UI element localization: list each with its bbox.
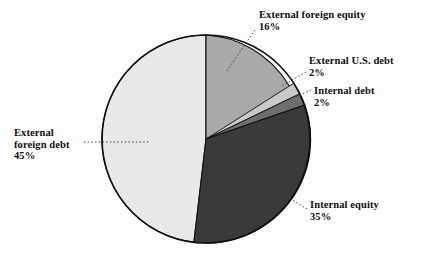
slice-label-text-line2: foreign debt <box>14 139 70 151</box>
slice-label-external-foreign-debt: External foreign debt 45% <box>14 127 70 162</box>
slice-label-percent: 35% <box>310 211 379 223</box>
slice-label-text-line1: External <box>14 127 54 138</box>
slice-label-external-foreign-equity: External foreign equity 16% <box>259 9 366 32</box>
slice-label-text: Internal equity <box>310 199 379 210</box>
slice-label-percent: 2% <box>309 67 394 79</box>
slice-label-internal-debt: Internal debt 2% <box>314 85 375 108</box>
slice-label-percent: 16% <box>259 21 366 33</box>
slice-label-percent: 2% <box>314 97 375 109</box>
slice-label-text: Internal debt <box>314 85 375 96</box>
pie-slice-external-foreign-debt[interactable] <box>102 35 206 242</box>
slice-label-internal-equity: Internal equity 35% <box>310 199 379 222</box>
slice-label-external-us-debt: External U.S. debt 2% <box>309 55 394 78</box>
slice-label-percent: 45% <box>14 150 70 162</box>
slice-label-text: External U.S. debt <box>309 55 394 66</box>
pie-chart-figure: External foreign equity 16% External U.S… <box>0 0 422 262</box>
slice-label-text: External foreign equity <box>259 9 366 20</box>
